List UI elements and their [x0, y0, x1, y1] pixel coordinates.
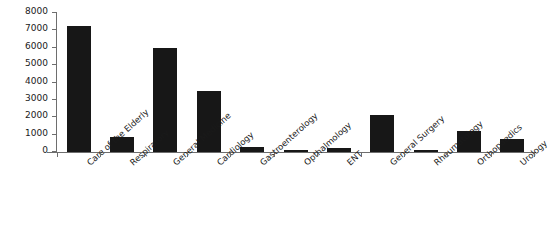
- x-tick-mark: [57, 153, 58, 157]
- x-tick-mark: [447, 153, 448, 157]
- x-axis-label: General Medicine: [171, 160, 178, 167]
- x-tick-mark: [100, 153, 101, 157]
- bar: [67, 26, 91, 152]
- x-axis-label: Orthopaedics: [475, 160, 482, 167]
- x-axis-label: Urology: [518, 160, 525, 167]
- y-tick-label: 8000: [25, 6, 48, 16]
- x-tick-mark: [317, 153, 318, 157]
- y-tick-label: 4000: [25, 76, 48, 86]
- x-axis-label: Gastroenterology: [258, 160, 265, 167]
- x-tick-mark: [187, 153, 188, 157]
- bar: [414, 150, 438, 152]
- x-axis-label: Respiratory: [128, 160, 135, 167]
- x-tick-mark: [144, 153, 145, 157]
- x-axis-label: General Surgery: [388, 160, 395, 167]
- x-axis-line: [47, 152, 536, 153]
- y-tick-label: 0: [42, 145, 48, 155]
- x-tick-mark: [361, 153, 362, 157]
- x-tick-mark: [274, 153, 275, 157]
- x-axis-label: Cardiology: [215, 160, 222, 167]
- x-axis-label: Rheumatology: [432, 160, 439, 167]
- x-axis-label: ENT: [345, 160, 352, 167]
- y-tick-label: 1000: [25, 128, 48, 138]
- x-axis-label: Care of the Elderly: [85, 160, 92, 167]
- y-tick-label: 2000: [25, 110, 48, 120]
- y-tick-label: 5000: [25, 58, 48, 68]
- x-tick-mark: [534, 153, 535, 157]
- y-tick-label: 6000: [25, 41, 48, 51]
- bar: [370, 115, 394, 152]
- x-axis-label: Opthalmology: [302, 160, 309, 167]
- bar: [327, 148, 351, 152]
- x-tick-mark: [230, 153, 231, 157]
- bar: [284, 150, 308, 152]
- y-tick-label: 3000: [25, 93, 48, 103]
- y-tick-label: 7000: [25, 23, 48, 33]
- x-tick-mark: [491, 153, 492, 157]
- x-tick-mark: [404, 153, 405, 157]
